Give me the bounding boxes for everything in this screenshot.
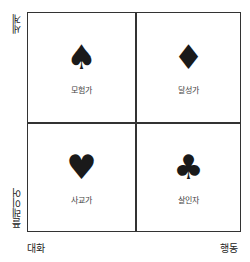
quadrant-achiever: ♦ 달성가 — [135, 13, 242, 122]
quadrant-label: 달성가 — [178, 84, 199, 95]
quadrant-grid: ♠ 모험가 ♦ 달성가 ♥ 사교가 ♣ 살인자 — [27, 12, 241, 232]
spade-icon: ♠ — [66, 40, 96, 74]
y-axis-top-label: 세계 — [9, 14, 24, 34]
quadrant-label: 모험가 — [71, 84, 92, 95]
x-axis-left-label: 대화 — [27, 240, 45, 255]
club-icon: ♣ — [173, 150, 203, 184]
x-axis-right-label: 행동 — [220, 240, 238, 255]
diamond-icon: ♦ — [173, 40, 203, 74]
quadrant-label: 사교가 — [71, 194, 92, 205]
quadrant-socializer: ♥ 사교가 — [28, 123, 135, 232]
quadrant-killer: ♣ 살인자 — [135, 123, 242, 232]
quadrant-explorer: ♠ 모험가 — [28, 13, 135, 122]
heart-icon: ♥ — [66, 150, 96, 184]
y-axis-bottom-label: 플레이어 — [9, 188, 24, 228]
quadrant-label: 살인자 — [178, 194, 199, 205]
